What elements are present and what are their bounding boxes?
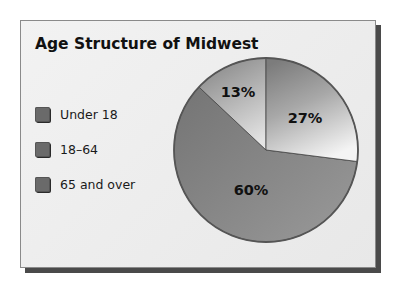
pie-chart: 13% 27% 60% (0, 0, 399, 284)
slice-label-13: 13% (221, 84, 256, 100)
chart-canvas: Age Structure of Midwest Under 18 18–64 … (0, 0, 399, 284)
slice-label-27: 27% (288, 110, 323, 126)
slice-label-60: 60% (234, 182, 269, 198)
